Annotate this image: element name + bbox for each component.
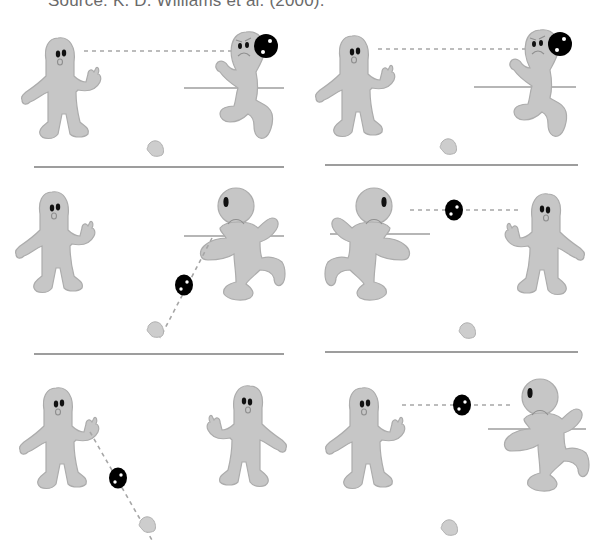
panel-6: [325, 379, 589, 535]
cyberball-figure: [0, 0, 598, 552]
panel-5: [19, 386, 286, 540]
panel-3: [15, 188, 285, 338]
panel-4: [325, 188, 585, 338]
panel-1: [21, 32, 284, 157]
panel-2: [315, 30, 576, 155]
